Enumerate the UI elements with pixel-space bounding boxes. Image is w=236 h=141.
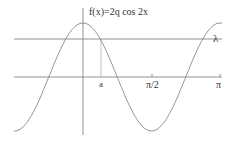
cosine-diagram: f(x)=2q cos 2x λ a π/2 π [0,0,236,141]
a-label: a [99,79,103,89]
half-pi-label: π/2 [146,79,159,90]
function-title: f(x)=2q cos 2x [89,6,148,18]
lambda-label: λ [213,32,219,44]
pi-label: π [216,79,221,90]
